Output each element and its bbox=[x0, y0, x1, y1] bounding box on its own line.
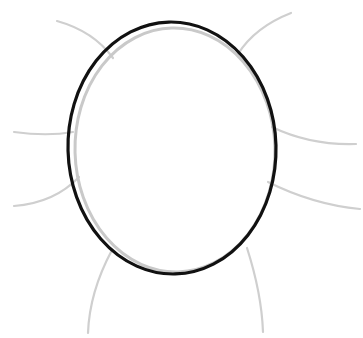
drawing-svg bbox=[0, 0, 363, 338]
drawing-canvas bbox=[0, 0, 363, 338]
canvas-background bbox=[0, 0, 363, 338]
